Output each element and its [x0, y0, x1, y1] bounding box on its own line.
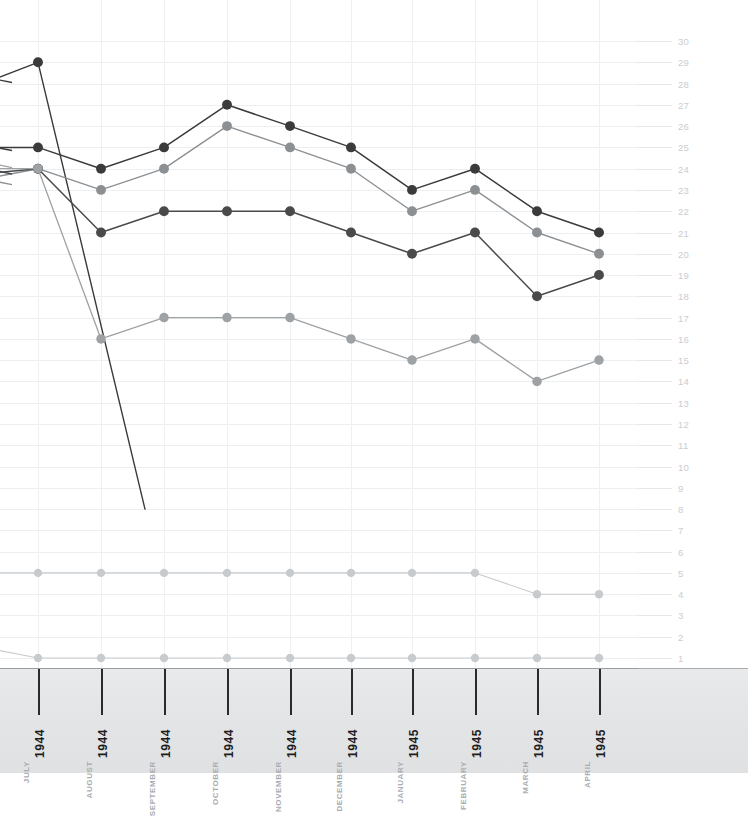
- series-segment: [227, 126, 290, 147]
- data-point: [594, 249, 604, 259]
- y-axis-tick-label: 4: [678, 589, 684, 600]
- data-point: [470, 334, 480, 344]
- data-point: [407, 206, 417, 216]
- y-axis-tick: [638, 211, 672, 212]
- y-axis-tick-label: 30: [678, 36, 689, 47]
- data-point: [346, 228, 356, 238]
- series-segment: [412, 233, 475, 254]
- x-axis-month-label: JULY: [22, 761, 31, 783]
- data-point: [222, 206, 232, 216]
- series-segment: [227, 105, 290, 126]
- y-axis-tick-label: 26: [678, 121, 689, 132]
- y-axis-tick: [638, 488, 672, 489]
- data-point: [223, 654, 231, 662]
- y-axis-tick: [638, 62, 672, 63]
- x-axis-tick: [227, 669, 229, 715]
- y-axis-tick-label: 1: [678, 653, 684, 664]
- series-segment: [351, 169, 412, 212]
- y-axis-tick-label: 22: [678, 206, 689, 217]
- data-point: [223, 569, 231, 577]
- y-axis-tick: [638, 615, 672, 616]
- x-axis-year-label: 1945: [532, 729, 546, 758]
- series-segment: [0, 164, 12, 167]
- data-point: [594, 228, 604, 238]
- data-point: [159, 313, 169, 323]
- series-segment: [475, 169, 537, 212]
- series-segment: [537, 233, 599, 254]
- data-point: [346, 142, 356, 152]
- x-axis-tick: [475, 669, 477, 715]
- data-point: [285, 206, 295, 216]
- x-axis: JULY1944AUGUST1944SEPTEMBER1944OCTOBER19…: [0, 668, 748, 773]
- x-axis-year-label: 1944: [159, 729, 173, 758]
- y-axis-tick: [638, 509, 672, 510]
- y-axis-tick: [638, 381, 672, 382]
- series-segment: [164, 105, 227, 148]
- data-point: [595, 590, 603, 598]
- data-point: [159, 206, 169, 216]
- data-point: [408, 654, 416, 662]
- x-axis-tick: [101, 669, 103, 715]
- y-axis-tick-label: 25: [678, 142, 689, 153]
- y-axis-tick: [638, 275, 672, 276]
- series-segment: [38, 147, 101, 168]
- x-axis-year-label: 1944: [96, 729, 110, 758]
- y-axis-tick: [638, 530, 672, 531]
- y-axis-tick-label: 27: [678, 99, 689, 110]
- y-axis-tick: [638, 105, 672, 106]
- y-axis-tick-label: 7: [678, 525, 684, 536]
- y-axis: 3029282726252423222120191817161514131211…: [638, 0, 748, 668]
- y-axis-tick: [638, 360, 672, 361]
- y-axis-tick-label: 24: [678, 163, 689, 174]
- x-axis-tick: [351, 669, 353, 715]
- data-point: [97, 654, 105, 662]
- data-point: [96, 228, 106, 238]
- y-axis-tick: [638, 403, 672, 404]
- y-axis-tick: [638, 233, 672, 234]
- series-series-6-faint-five: [0, 569, 603, 599]
- y-axis-tick: [638, 445, 672, 446]
- x-axis-year-label: 1944: [222, 729, 236, 758]
- series-segment: [351, 339, 412, 360]
- y-axis-tick-label: 21: [678, 227, 689, 238]
- series-segment: [537, 211, 599, 232]
- data-point: [595, 654, 603, 662]
- data-point: [285, 313, 295, 323]
- y-axis-tick-label: 13: [678, 397, 689, 408]
- x-axis-month-label: APRIL: [583, 761, 592, 788]
- x-axis-tick: [38, 669, 40, 715]
- series-segment: [290, 126, 351, 147]
- data-point: [407, 355, 417, 365]
- y-axis-tick: [638, 126, 672, 127]
- y-axis-tick-label: 6: [678, 546, 684, 557]
- x-axis-year-label: 1945: [407, 729, 421, 758]
- y-axis-tick-label: 19: [678, 270, 689, 281]
- y-axis-tick-label: 18: [678, 291, 689, 302]
- x-axis-tick: [537, 669, 539, 715]
- y-axis-tick: [638, 296, 672, 297]
- y-axis-tick: [638, 467, 672, 468]
- y-axis-tick: [638, 637, 672, 638]
- y-axis-tick-label: 16: [678, 333, 689, 344]
- data-point: [33, 164, 43, 174]
- data-point: [34, 569, 42, 577]
- series-segment: [475, 190, 537, 233]
- data-point: [533, 590, 541, 598]
- data-point: [594, 270, 604, 280]
- x-axis-tick: [412, 669, 414, 715]
- y-axis-tick-label: 5: [678, 567, 684, 578]
- data-point: [594, 355, 604, 365]
- data-point: [408, 569, 416, 577]
- y-axis-tick-label: 2: [678, 631, 684, 642]
- data-point: [96, 185, 106, 195]
- data-point: [160, 654, 168, 662]
- x-axis-month-label: SEPTEMBER: [148, 761, 157, 816]
- data-point: [533, 654, 541, 662]
- series-segment: [412, 339, 475, 360]
- data-point: [471, 569, 479, 577]
- x-axis-month-label: DECEMBER: [335, 761, 344, 812]
- series-series-7-faint-one: [0, 650, 603, 663]
- x-axis-year-label: 1944: [346, 729, 360, 758]
- y-axis-tick-label: 14: [678, 376, 689, 387]
- x-axis-month-label: OCTOBER: [211, 761, 220, 805]
